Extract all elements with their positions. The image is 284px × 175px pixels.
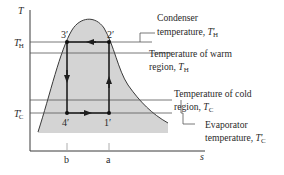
- ts-diagram: 3′ 2′ 4′ 1′ b a T s T′H T′C Condenser te…: [0, 0, 284, 175]
- annotation-cold-region: Temperature of cold region, TC: [174, 88, 252, 114]
- x-axis-label: s: [200, 151, 204, 162]
- y-axis-label: T: [18, 5, 25, 16]
- y-tick-tc-prime: T′C: [14, 108, 24, 121]
- vapor-dome-region: [38, 19, 168, 133]
- svg-text:region, TC: region, TC: [174, 101, 214, 114]
- state-label-3: 3′: [61, 29, 68, 40]
- state-point-3: [65, 40, 69, 44]
- condenser-leader: [140, 33, 155, 42]
- svg-text:Evaporator: Evaporator: [205, 119, 248, 130]
- state-label-4: 4′: [62, 117, 69, 128]
- state-label-1: 1′: [104, 117, 111, 128]
- svg-text:Condenser: Condenser: [157, 12, 199, 23]
- state-point-4: [65, 111, 69, 115]
- state-point-1: [107, 111, 111, 115]
- annotation-warm-region: Temperature of warm region, TH: [149, 48, 233, 74]
- svg-text:region, TH: region, TH: [149, 61, 189, 74]
- tick-label-a: a: [106, 154, 111, 165]
- state-label-2: 2′: [107, 29, 114, 40]
- tick-label-b: b: [64, 154, 69, 165]
- state-point-2: [107, 40, 111, 44]
- y-tick-th-prime: T′H: [14, 37, 24, 50]
- annotation-evaporator: Evaporator temperature, T′C: [205, 119, 266, 145]
- annotation-condenser: Condenser temperature, T′H: [157, 12, 218, 39]
- svg-text:temperature, T′C: temperature, T′C: [205, 132, 266, 145]
- svg-text:temperature, T′H: temperature, T′H: [157, 26, 218, 39]
- svg-text:Temperature of cold: Temperature of cold: [174, 88, 252, 99]
- svg-text:Temperature of warm: Temperature of warm: [149, 48, 233, 59]
